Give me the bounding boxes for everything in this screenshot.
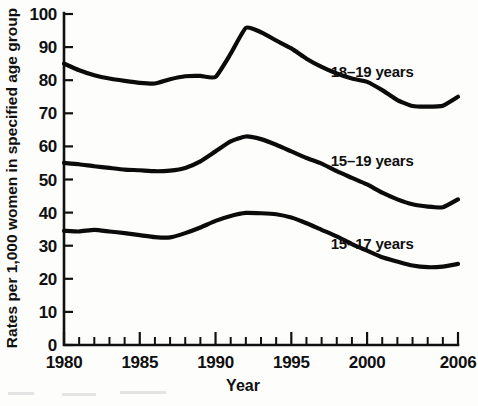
x-tick-label: 1995 bbox=[273, 353, 310, 372]
series-label-18-19-years: 18–19 years bbox=[331, 63, 414, 80]
y-tick-label: 20 bbox=[39, 270, 57, 289]
series-label-15-19-years: 15–19 years bbox=[331, 152, 414, 169]
series-label-15-17-years: 15–17 years bbox=[331, 235, 414, 252]
y-tick-label: 60 bbox=[39, 137, 57, 156]
x-tick-label: 2006 bbox=[440, 353, 477, 372]
x-tick-label: 2000 bbox=[349, 353, 386, 372]
x-axis-tick-labels: 198019851990199520002006 bbox=[46, 353, 477, 372]
series-inline-labels: 18–19 years15–19 years15–17 years bbox=[331, 63, 414, 252]
y-tick-label: 80 bbox=[39, 71, 57, 90]
scan-artifact bbox=[8, 392, 34, 395]
y-tick-label: 30 bbox=[39, 237, 57, 256]
y-tick-label: 50 bbox=[39, 171, 57, 190]
y-axis-tick-labels: 0102030405060708090100 bbox=[30, 5, 57, 355]
y-tick-label: 100 bbox=[30, 5, 57, 24]
scan-artifact bbox=[62, 393, 96, 396]
series-line-15-19-years bbox=[64, 136, 458, 207]
x-tick-label: 1980 bbox=[46, 353, 83, 372]
x-tick-label: 1990 bbox=[197, 353, 234, 372]
y-tick-label: 40 bbox=[39, 204, 57, 223]
x-axis-title: Year bbox=[226, 377, 260, 394]
x-tick-label: 1985 bbox=[121, 353, 158, 372]
y-tick-label: 10 bbox=[39, 303, 57, 322]
chart-figure: 0102030405060708090100 19801985199019952… bbox=[0, 0, 478, 406]
line-chart-canvas: 0102030405060708090100 19801985199019952… bbox=[0, 0, 478, 406]
y-axis-title: Rates per 1,000 women in specified age g… bbox=[3, 8, 20, 348]
y-tick-label: 90 bbox=[39, 38, 57, 57]
y-tick-label: 70 bbox=[39, 104, 57, 123]
scan-artifact bbox=[120, 391, 166, 394]
